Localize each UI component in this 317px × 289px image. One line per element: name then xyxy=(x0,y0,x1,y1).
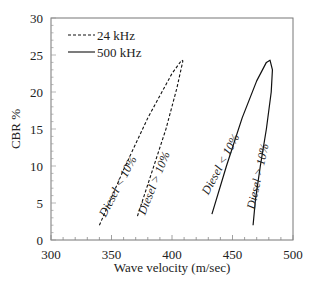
x-tick-label: 300 xyxy=(41,247,61,262)
legend: 24 kHz500 kHz xyxy=(68,28,142,60)
legend-label: 24 kHz xyxy=(97,28,135,43)
legend-label: 500 kHz xyxy=(97,45,142,60)
axis-ticks: 300350400450500051015202530 xyxy=(30,11,303,263)
x-axis-label: Wave velocity (m/sec) xyxy=(114,260,231,275)
annotation-label: Diesel > 10% xyxy=(134,149,172,217)
y-tick-label: 25 xyxy=(30,48,43,63)
annotation-label: Diesel < 10% xyxy=(95,154,139,220)
series-500-khz xyxy=(212,60,273,225)
y-tick-label: 30 xyxy=(30,11,43,26)
y-tick-label: 5 xyxy=(37,196,44,211)
annotations: Diesel < 10%Diesel > 10%Diesel < 10%Dies… xyxy=(95,131,271,220)
y-tick-label: 20 xyxy=(30,85,43,100)
y-tick-label: 15 xyxy=(30,122,43,137)
y-tick-label: 10 xyxy=(30,159,43,174)
annotation-label: Diesel > 10% xyxy=(244,142,272,211)
y-tick-label: 0 xyxy=(37,233,44,248)
x-tick-label: 500 xyxy=(283,247,303,262)
chart: 300350400450500051015202530 Diesel < 10%… xyxy=(0,0,317,289)
y-axis-label: CBR % xyxy=(8,109,23,149)
